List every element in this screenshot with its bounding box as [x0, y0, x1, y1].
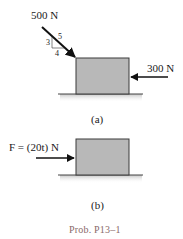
slope-label-hyp: 5 — [58, 32, 62, 41]
label-force-f: F = (20t) N — [9, 141, 59, 153]
caption-a: (a) — [91, 113, 103, 125]
block-a — [76, 58, 129, 94]
caption-b: (b) — [91, 199, 104, 211]
ground-shadow-a — [60, 94, 142, 102]
ground-shadow-b — [60, 175, 142, 183]
label-300n: 300 N — [147, 62, 174, 74]
block-b — [76, 139, 129, 175]
slope-label-horizontal: 4 — [55, 49, 59, 58]
problem-label: Prob. P13–1 — [69, 224, 121, 235]
slope-label-vertical: 3 — [46, 38, 50, 47]
label-500n: 500 N — [31, 9, 58, 21]
